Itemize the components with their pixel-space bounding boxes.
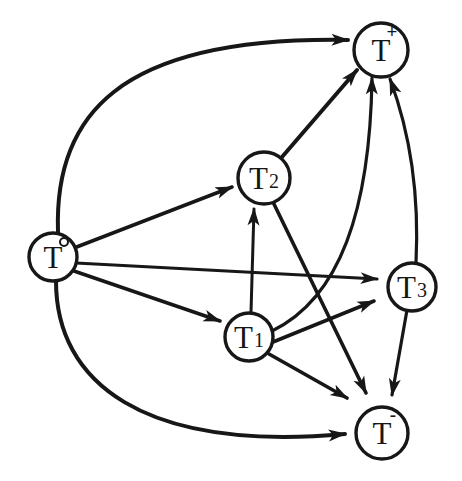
- edge-T3-to-Tplus: [390, 79, 417, 263]
- node-sup-Tminus: -: [390, 404, 396, 425]
- edges-layer: [56, 40, 417, 437]
- edge-T0-to-T1: [71, 270, 220, 321]
- edge-T3-to-Tminus: [392, 310, 407, 395]
- node-T1: T1: [225, 313, 273, 361]
- node-T3: T3: [388, 263, 436, 311]
- edge-T1-to-T2: [251, 209, 254, 312]
- edge-T1-to-Tplus: [272, 78, 372, 331]
- edge-T0-to-T2: [74, 187, 232, 248]
- node-T2: T2: [238, 152, 290, 204]
- edge-T0-to-Tplus: [58, 40, 348, 232]
- edge-T1-to-Tminus: [269, 354, 347, 398]
- node-label-T0: T: [44, 240, 63, 275]
- diagram-figure: TT+T2T3T1T-: [0, 0, 462, 481]
- node-Tminus: T-: [356, 404, 408, 459]
- edge-T2-to-Tplus: [282, 70, 357, 157]
- node-T0: T: [29, 233, 77, 281]
- edge-T0-to-Tminus: [56, 281, 345, 437]
- directed-graph-canvas: TT+T2T3T1T-: [0, 0, 462, 481]
- node-label-Tminus: T: [373, 416, 392, 451]
- node-Tplus: T+: [354, 21, 408, 77]
- node-sup-Tplus: +: [387, 21, 398, 42]
